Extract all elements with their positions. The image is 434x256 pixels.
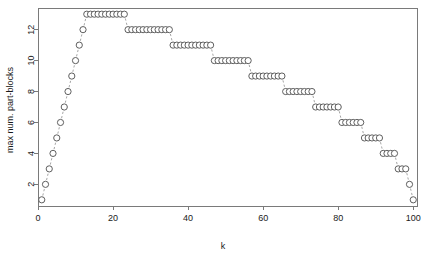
plot-background [0, 0, 434, 256]
data-point [279, 73, 285, 79]
y-tick-label: 4 [26, 151, 36, 156]
data-point [54, 135, 60, 141]
data-point [57, 119, 63, 125]
x-tick-label: 100 [406, 213, 421, 223]
data-point [391, 150, 397, 156]
y-tick-label: 2 [26, 182, 36, 187]
data-point [76, 42, 82, 48]
data-point [50, 150, 56, 156]
data-point [65, 88, 71, 94]
y-tick-label: 6 [26, 120, 36, 125]
y-tick-label: 12 [26, 25, 36, 35]
data-point [245, 57, 251, 63]
y-tick-label: 10 [26, 56, 36, 66]
x-tick-label: 0 [35, 213, 40, 223]
x-tick-label: 40 [183, 213, 193, 223]
data-point [61, 104, 67, 110]
data-point [410, 197, 416, 203]
x-tick-label: 20 [108, 213, 118, 223]
data-point [208, 42, 214, 48]
x-axis-title: k [221, 241, 226, 251]
data-point [358, 119, 364, 125]
scatter-plot-canvas: 24681012 020406080100 max num. part-bloc… [0, 0, 434, 256]
data-point [403, 166, 409, 172]
data-point [42, 181, 48, 187]
data-point [80, 27, 86, 33]
data-point [406, 181, 412, 187]
data-point [39, 197, 45, 203]
data-point [46, 166, 52, 172]
y-tick-label: 8 [26, 89, 36, 94]
x-tick-label: 80 [333, 213, 343, 223]
x-tick-label: 60 [258, 213, 268, 223]
data-point [166, 27, 172, 33]
data-point [335, 104, 341, 110]
y-axis-title: max num. part-blocks [5, 66, 15, 153]
data-point [309, 88, 315, 94]
chart-figure: 24681012 020406080100 max num. part-bloc… [0, 0, 434, 256]
data-point [69, 73, 75, 79]
data-point [121, 11, 127, 17]
data-point [72, 57, 78, 63]
data-point [376, 135, 382, 141]
